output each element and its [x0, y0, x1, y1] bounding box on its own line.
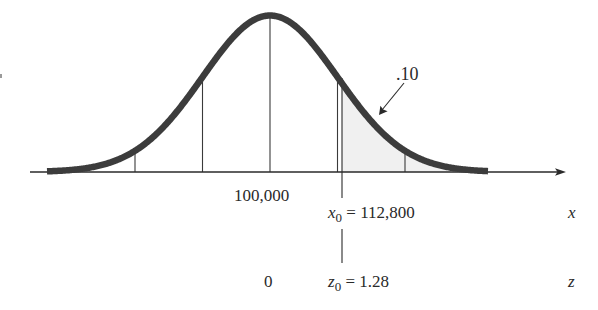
- z-axis-variable-label: z: [567, 272, 575, 291]
- normal-distribution-figure: .10 100,000 x0 = 112,800 x 0 z0 = 1.28 z: [0, 0, 598, 310]
- x0-value: = 112,800: [342, 203, 415, 222]
- z0-label: z0 = 1.28: [327, 272, 389, 294]
- z0-value: = 1.28: [341, 272, 389, 291]
- tail-area-label: .10: [396, 64, 419, 84]
- tail-pointer-arrow: [379, 83, 404, 115]
- edge-mark: [0, 74, 2, 78]
- x0-label: x0 = 112,800: [327, 203, 415, 225]
- mean-z-label: 0: [264, 272, 273, 291]
- normal-curve: [47, 16, 488, 172]
- mean-x-label: 100,000: [234, 186, 289, 205]
- arrowhead-icon: [379, 106, 388, 115]
- x-axis-variable-label: x: [567, 203, 576, 222]
